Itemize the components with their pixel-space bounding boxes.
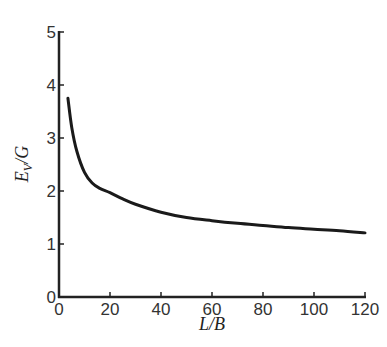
y-axis-title: EV/G bbox=[12, 146, 35, 183]
y-tick-label: 5 bbox=[47, 23, 56, 42]
y-tick-label: 1 bbox=[47, 235, 56, 254]
x-tick-label: 80 bbox=[254, 300, 273, 319]
series-line bbox=[68, 98, 365, 233]
series bbox=[68, 98, 365, 233]
y-tick-label: 4 bbox=[47, 76, 56, 95]
x-tick-label: 100 bbox=[300, 300, 328, 319]
chart: 012345 020406080100120 L/B EV/G bbox=[0, 0, 387, 347]
x-tick-label: 120 bbox=[351, 300, 379, 319]
y-tick-label: 3 bbox=[47, 129, 56, 148]
x-axis-title: L/B bbox=[198, 314, 225, 334]
y-ticks: 012345 bbox=[47, 23, 64, 307]
x-tick-label: 0 bbox=[54, 300, 63, 319]
x-tick-label: 20 bbox=[101, 300, 120, 319]
y-axis-title-rest: /G bbox=[12, 146, 32, 165]
axes bbox=[58, 31, 366, 298]
y-tick-label: 2 bbox=[47, 182, 56, 201]
x-tick-label: 40 bbox=[152, 300, 171, 319]
y-axis-title-main: E bbox=[12, 171, 32, 183]
